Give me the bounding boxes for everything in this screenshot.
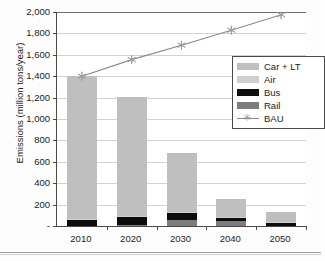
chart-legend: Car + LTAirBusRailBAU (232, 56, 325, 129)
legend-item-line: BAU (237, 112, 321, 125)
x-tick-mark (306, 226, 307, 230)
y-tick-label: 2,000 (8, 6, 50, 17)
legend-item-air: Air (237, 73, 321, 86)
page-rule-upper (0, 252, 321, 253)
bau-asterisk-marker (227, 26, 235, 35)
page-rule-lower (0, 254, 321, 255)
bau-asterisk-marker (78, 72, 86, 81)
y-tick-label: - (8, 220, 50, 231)
x-tick-mark (206, 226, 207, 230)
legend-swatch-icon (237, 63, 259, 70)
y-tick-mark (53, 226, 57, 227)
x-tick-label: 2050 (257, 233, 303, 244)
legend-item-carlt: Car + LT (237, 60, 321, 73)
x-tick-mark (256, 226, 257, 230)
legend-swatch-icon (237, 76, 259, 83)
legend-swatch-icon (237, 115, 259, 122)
legend-item-label: Bus (264, 87, 280, 98)
legend-item-label: Air (264, 74, 276, 85)
legend-item-label: Car + LT (264, 61, 301, 72)
y-tick-label: 200 (8, 199, 50, 210)
x-tick-label: 2020 (108, 233, 154, 244)
x-tick-label: 2040 (207, 233, 253, 244)
bau-asterisk-marker (128, 55, 136, 64)
legend-item-bus: Bus (237, 86, 321, 99)
y-axis-title: Emissions (million tons/year) (14, 18, 28, 188)
x-tick-label: 2030 (158, 233, 204, 244)
x-tick-mark (157, 226, 158, 230)
legend-item-label: Rail (264, 100, 280, 111)
legend-item-label: BAU (264, 113, 284, 124)
legend-swatch-icon (237, 102, 259, 109)
legend-swatch-icon (237, 89, 259, 96)
x-tick-mark (107, 226, 108, 230)
x-tick-label: 2010 (58, 233, 104, 244)
bau-asterisk-marker (178, 41, 186, 50)
